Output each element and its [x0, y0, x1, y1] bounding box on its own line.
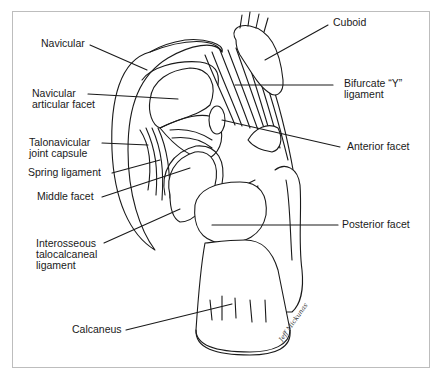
- label-posterior-facet: Posterior facet: [342, 219, 410, 230]
- label-bifurcate-ligament: Bifurcate “Y” ligament: [344, 78, 402, 100]
- label-middle-facet: Middle facet: [37, 191, 94, 202]
- label-talonavicular-joint-capsule: Talonavicular joint capsule: [29, 137, 90, 159]
- label-interosseous-ligament: Interosseous talocalcaneal ligament: [36, 238, 97, 271]
- label-calcaneus: Calcaneus: [72, 324, 122, 335]
- label-navicular-articular-facet: Navicular articular facet: [32, 88, 95, 110]
- posterior-facet: [195, 182, 267, 243]
- calcaneus-bone: [196, 240, 290, 355]
- label-spring-ligament: Spring ligament: [28, 167, 101, 178]
- label-navicular: Navicular: [41, 38, 85, 49]
- label-cuboid: Cuboid: [333, 17, 366, 28]
- label-anterior-facet: Anterior facet: [347, 141, 409, 152]
